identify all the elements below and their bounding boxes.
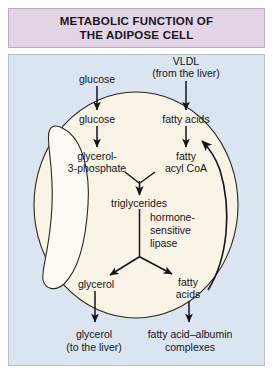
label-glycerol-intracellular: glycerol: [78, 278, 114, 290]
figure-metabolic-function-adipose-cell: METABOLIC FUNCTION OF THE ADIPOSE CELL: [0, 0, 273, 374]
label-fatty-acyl-coa-line-1: fatty: [176, 150, 196, 162]
label-hormone-sensitive-lipase-line-3: lipase: [150, 237, 177, 249]
label-fatty-acid-albumin-line-1: fatty acid–albumin: [148, 328, 233, 340]
label-glucose-intracellular: glucose: [79, 113, 115, 125]
label-glycerol-3-phosphate-line-2: 3-phosphate: [68, 162, 126, 174]
page-title-line-2: THE ADIPOSE CELL: [80, 28, 194, 42]
label-glucose-extracellular: glucose: [79, 73, 115, 85]
label-hormone-sensitive-lipase-line-1: hormone-: [150, 211, 195, 223]
label-hormone-sensitive-lipase-line-2: sensitive: [150, 224, 191, 236]
label-triglycerides: triglycerides: [111, 197, 167, 209]
figure-title-banner: METABOLIC FUNCTION OF THE ADIPOSE CELL: [8, 8, 265, 48]
label-fatty-acids-intracellular: fatty acids: [162, 113, 209, 125]
label-fatty-acyl-coa-line-2: acyl CoA: [165, 162, 207, 174]
label-vldl: VLDL: [173, 55, 199, 67]
label-glycerol-export-line-1: glycerol: [76, 328, 112, 340]
label-vldl-source: (from the liver): [152, 67, 220, 79]
page-title-line-1: METABOLIC FUNCTION OF: [60, 14, 213, 28]
label-glycerol-export-line-2: (to the liver): [66, 341, 121, 353]
label-glycerol-3-phosphate-line-1: glycerol-: [77, 150, 117, 162]
label-fatty-acid-albumin-line-2: complexes: [165, 341, 215, 353]
label-fatty-acids-released-line-2: acids: [176, 288, 201, 300]
diagram-panel: [8, 54, 265, 366]
label-fatty-acids-released-line-1: fatty: [178, 276, 198, 288]
